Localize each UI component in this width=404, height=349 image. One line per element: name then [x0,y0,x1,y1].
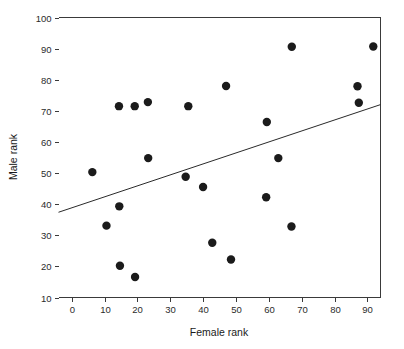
data-point [116,262,124,270]
y-tick-label: 40 [41,199,52,210]
x-tick-label: 90 [362,304,373,315]
data-point [274,154,282,162]
data-point [262,193,270,201]
x-tick-label: 0 [70,304,75,315]
data-point [88,168,96,176]
x-tick-label: 70 [297,304,308,315]
x-tick-label: 30 [165,304,176,315]
data-point [184,102,192,110]
y-axis-title: Male rank [7,133,19,180]
data-point [115,202,123,210]
x-tick-label: 50 [231,304,242,315]
y-tick-label: 50 [41,168,52,179]
x-tick-label: 60 [264,304,275,315]
data-point [227,255,235,263]
y-tick-label: 70 [41,106,52,117]
y-tick-label: 60 [41,137,52,148]
y-tick-label: 80 [41,75,52,86]
data-point [131,273,139,281]
y-tick-label: 90 [41,44,52,55]
data-point [353,82,361,90]
y-tick-label: 30 [41,230,52,241]
figure-background [0,0,404,349]
data-point [181,173,189,181]
x-tick-label: 10 [100,304,111,315]
y-tick-label: 20 [41,261,52,272]
data-point [199,183,207,191]
x-axis-title: Female rank [190,326,249,338]
x-tick-label: 20 [132,304,143,315]
data-point [287,222,295,230]
data-point [102,221,110,229]
data-point [263,118,271,126]
data-point [144,98,152,106]
chart-canvas: 102030405060708090100 010203040506070809… [0,0,404,349]
data-point [115,102,123,110]
scatter-plot-figure: 102030405060708090100 010203040506070809… [0,0,404,349]
data-point [131,102,139,110]
data-point [288,43,296,51]
data-point [355,99,363,107]
y-tick-label: 10 [41,293,52,304]
data-point [222,82,230,90]
data-point [369,42,377,50]
y-tick-label: 100 [36,13,52,24]
data-point [208,239,216,247]
data-point [144,154,152,162]
x-tick-label: 80 [330,304,341,315]
x-tick-label: 40 [198,304,209,315]
